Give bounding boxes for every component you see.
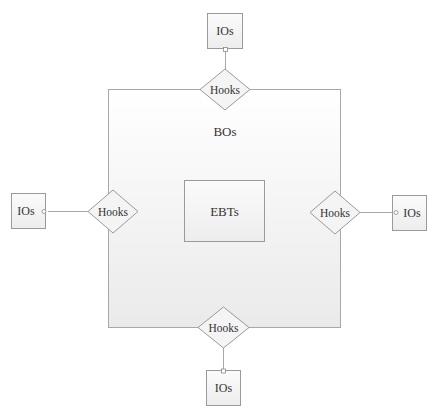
hooks-bottom-label: Hooks <box>208 322 239 334</box>
port-icon <box>394 211 398 215</box>
ios-top: IOs <box>208 14 243 52</box>
ios-top-label: IOs <box>216 24 234 38</box>
ios-left: IOs <box>12 194 47 229</box>
architecture-diagram: BOs EBTs IOs IOs IOs IOs Hooks <box>0 0 438 420</box>
ios-bottom: IOs <box>207 369 241 406</box>
hooks-right-label: Hooks <box>320 207 351 219</box>
port-icon <box>42 210 46 214</box>
hooks-left-label: Hooks <box>98 206 129 218</box>
port-icon <box>222 369 226 373</box>
ebts-label: EBTs <box>210 204 239 219</box>
ios-right: IOs <box>393 196 427 231</box>
port-icon <box>224 48 228 52</box>
ebts-box: EBTs <box>185 181 265 242</box>
ios-left-label: IOs <box>17 204 35 218</box>
hooks-top-label: Hooks <box>210 84 241 96</box>
bos-label: BOs <box>213 124 236 139</box>
ios-bottom-label: IOs <box>215 381 233 395</box>
ios-right-label: IOs <box>403 206 421 220</box>
